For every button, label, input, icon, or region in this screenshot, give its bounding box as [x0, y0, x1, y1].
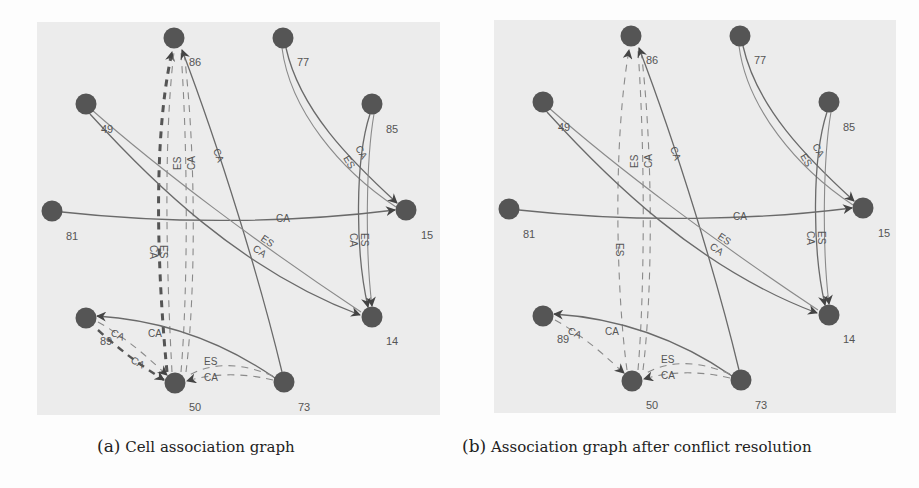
node-86: 86	[164, 28, 202, 69]
node-89: 89	[76, 308, 113, 348]
edge-50-86-es	[181, 52, 186, 372]
caption-text: Cell association graph	[125, 438, 295, 456]
node-50: 50	[165, 373, 202, 414]
node-77: 77	[730, 26, 767, 67]
edge-label: ES	[158, 245, 169, 259]
edge-73-86-ca	[639, 48, 739, 370]
svg-text:81: 81	[66, 230, 78, 242]
svg-text:50: 50	[646, 399, 658, 411]
edge-label: ES	[629, 154, 640, 168]
node-81: 81	[499, 199, 536, 241]
edge-label: ES	[798, 152, 814, 169]
edge-label: CA	[733, 211, 747, 222]
svg-text:49: 49	[101, 123, 113, 135]
node-14: 14	[362, 307, 399, 348]
edge-85-14-es	[367, 114, 374, 306]
edge-73-86-ca	[182, 50, 282, 372]
edge-label: CA	[186, 156, 197, 170]
edge-label: CA	[805, 231, 816, 245]
edge-label: ES	[614, 243, 625, 257]
edge-label: CA	[353, 144, 370, 162]
svg-text:15: 15	[421, 229, 433, 241]
svg-text:85: 85	[843, 121, 855, 133]
svg-text:73: 73	[755, 399, 767, 411]
svg-text:81: 81	[523, 228, 535, 240]
caption-a: (a) Cell association graph	[97, 436, 295, 456]
edge-label: CA	[204, 372, 218, 383]
svg-text:15: 15	[878, 227, 890, 239]
node-85: 85	[362, 94, 399, 136]
node-14: 14	[819, 305, 856, 346]
edge-49-14-es	[549, 108, 818, 310]
edge-50-86-ca-bold	[159, 52, 172, 372]
edge-label: CA	[148, 245, 159, 259]
node-15: 15	[853, 198, 891, 240]
svg-text:14: 14	[843, 333, 855, 345]
edge-label: ES	[172, 156, 183, 170]
edge-label: CA	[148, 328, 162, 339]
edge-77-15-es	[282, 48, 396, 207]
edge-85-14-es	[824, 112, 831, 304]
edge-86-50-es	[167, 52, 174, 372]
edge-label: CA	[276, 213, 290, 224]
node-15: 15	[396, 200, 434, 242]
edge-label: CA	[643, 154, 654, 168]
edge-label: ES	[661, 354, 675, 365]
edge-85-14-ca	[358, 114, 370, 307]
edge-label: ES	[204, 356, 218, 367]
svg-text:73: 73	[298, 401, 310, 413]
edge-49-14-ca	[547, 112, 817, 313]
edge-label: ES	[816, 231, 827, 245]
node-49: 49	[533, 92, 571, 134]
edge-73-50-ca	[187, 375, 273, 381]
graph-panel-a: ES CA CA CA ES ES CA CA ES CA ES CA CA C…	[37, 22, 440, 415]
resolved-association-graph: ES CA CA ES ES CA CA ES CA ES CA CA CA E…	[494, 20, 896, 413]
edge-85-14-ca	[815, 112, 827, 305]
node-50: 50	[622, 371, 659, 412]
node-86: 86	[621, 26, 659, 67]
caption-b: (b) Association graph after conflict res…	[462, 436, 812, 456]
edge-50-86-es	[638, 50, 643, 370]
cell-association-graph: ES CA CA CA ES ES CA CA ES CA ES CA CA C…	[37, 22, 440, 415]
edge-label: CA	[668, 145, 683, 162]
graph-panel-b: ES CA CA ES ES CA CA ES CA ES CA CA CA E…	[494, 20, 896, 413]
edge-73-50-ca	[644, 373, 730, 379]
svg-text:86: 86	[189, 56, 201, 68]
edge-77-15-es	[739, 46, 853, 205]
node-81: 81	[42, 201, 79, 243]
edge-77-15-ca	[286, 48, 397, 203]
edge-label: ES	[341, 154, 357, 171]
svg-text:50: 50	[189, 401, 201, 413]
edge-49-14-es	[92, 110, 361, 312]
edge-label: CA	[605, 326, 619, 337]
node-73: 73	[731, 370, 768, 412]
node-77: 77	[273, 28, 310, 69]
caption-tag: (b)	[462, 436, 486, 456]
caption-text: Association graph after conflict resolut…	[491, 438, 812, 456]
svg-text:77: 77	[754, 54, 766, 66]
edge-label: CA	[211, 147, 226, 164]
edge-label: CA	[348, 233, 359, 247]
edge-50-86-ca	[184, 52, 193, 372]
edge-label: ES	[359, 233, 370, 247]
node-85: 85	[819, 92, 856, 134]
edge-50-86-ca	[641, 50, 650, 370]
caption-tag: (a)	[97, 436, 120, 456]
edge-49-14-ca	[90, 114, 360, 315]
svg-text:49: 49	[558, 121, 570, 133]
edge-86-50-es	[618, 50, 629, 370]
node-89: 89	[533, 306, 570, 346]
edge-77-15-ca	[743, 46, 854, 201]
edge-label: CA	[810, 142, 827, 160]
edge-label: CA	[661, 370, 675, 381]
svg-text:89: 89	[100, 335, 112, 347]
node-49: 49	[76, 94, 114, 136]
svg-text:89: 89	[557, 333, 569, 345]
svg-text:86: 86	[646, 54, 658, 66]
svg-text:77: 77	[297, 56, 309, 68]
svg-text:14: 14	[386, 335, 398, 347]
svg-text:85: 85	[386, 123, 398, 135]
node-73: 73	[274, 372, 311, 414]
